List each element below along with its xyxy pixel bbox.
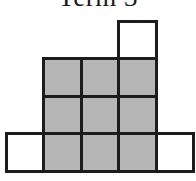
shaded-grid-cell — [80, 132, 121, 173]
shaded-grid-cell — [117, 57, 158, 98]
figure-canvas: Term 3 — [0, 0, 196, 181]
shaded-grid-cell — [42, 95, 83, 136]
pattern-figure — [0, 0, 196, 181]
unshaded-grid-cell — [155, 132, 196, 173]
shaded-grid-cell — [42, 132, 83, 173]
unshaded-grid-cell — [117, 20, 158, 61]
shaded-grid-cell — [80, 95, 121, 136]
unshaded-grid-cell — [5, 132, 46, 173]
shaded-grid-cell — [80, 57, 121, 98]
shaded-grid-cell — [117, 95, 158, 136]
shaded-grid-cell — [42, 57, 83, 98]
shaded-grid-cell — [117, 132, 158, 173]
